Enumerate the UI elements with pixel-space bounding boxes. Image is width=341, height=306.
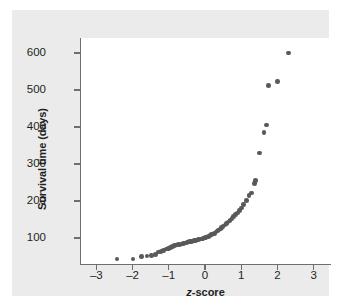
x-tick-label-2: 2: [265, 269, 289, 281]
plot-panel: [80, 38, 330, 264]
scatter-point: [275, 79, 280, 84]
x-tick-label--3: –3: [84, 269, 108, 281]
x-axis-label: z-score: [80, 286, 331, 298]
x-axis-label-suffix: -score: [192, 286, 225, 298]
scatter-point: [241, 202, 246, 207]
x-tick-label--2: –2: [121, 269, 145, 281]
y-tick-200: [74, 200, 80, 201]
y-tick-100: [74, 237, 80, 238]
scatter-point: [244, 198, 249, 203]
scatter-point: [262, 130, 267, 135]
scatter-point: [253, 178, 258, 183]
y-tick-label-600: 600: [6, 46, 46, 58]
y-tick-label-500: 500: [6, 83, 46, 95]
x-tick-label-1: 1: [229, 269, 253, 281]
y-tick-400: [74, 126, 80, 127]
y-axis-line: [80, 38, 81, 265]
scatter-point: [257, 151, 262, 156]
y-tick-600: [74, 52, 80, 53]
y-tick-label-100: 100: [6, 231, 46, 243]
x-tick-label-0: 0: [193, 269, 217, 281]
y-axis-label: Survival time (days): [36, 108, 48, 210]
scatter-point: [139, 254, 144, 259]
x-tick-label-3: 3: [302, 269, 326, 281]
figure-background: 100200300400500600 –3–2–10123 Survival t…: [12, 10, 329, 296]
scatter-point: [286, 51, 291, 56]
x-tick-label--1: –1: [157, 269, 181, 281]
y-tick-300: [74, 163, 80, 164]
scatter-point: [266, 83, 271, 88]
y-tick-500: [74, 89, 80, 90]
scatter-point: [249, 191, 254, 196]
